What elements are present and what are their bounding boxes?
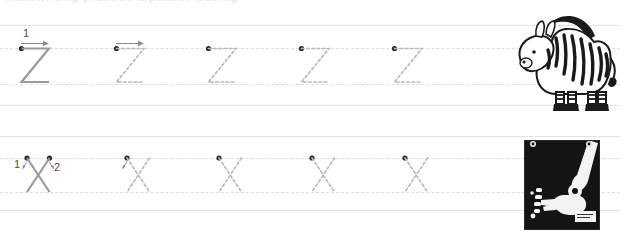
stroke-number-1: 1 (23, 27, 29, 39)
worksheet-page: handwriting practice alphabet tracing 1 (0, 0, 620, 232)
trace-letter-x-3[interactable] (299, 146, 369, 208)
trace-letter-z-2[interactable] (205, 24, 269, 94)
direction-arrow-1-icon (22, 162, 27, 170)
direction-arrow-1-icon (122, 162, 127, 170)
letter-path-z (302, 49, 330, 83)
letter-path-z (209, 49, 237, 83)
stroke-number-2: 2 (54, 161, 60, 173)
letter-path-z (395, 49, 423, 83)
zebra-illustration (512, 10, 618, 122)
trace-letter-z-3[interactable] (298, 24, 362, 94)
trace-letter-x-2[interactable] (206, 146, 276, 208)
letter-path-z (117, 49, 145, 83)
trace-letter-x-1[interactable] (114, 146, 184, 208)
page-title-cropped: handwriting practice alphabet tracing (6, 0, 306, 3)
row-x-top-rule (0, 136, 620, 137)
model-letter-x[interactable]: 1 2 (14, 146, 84, 208)
trace-letter-x-4[interactable] (392, 146, 462, 208)
trace-letter-z-4[interactable] (391, 24, 455, 94)
letter-path-z (22, 49, 50, 83)
direction-arrow-icon (21, 41, 49, 46)
zebra-drawing (519, 16, 616, 111)
stroke-number-1: 1 (14, 158, 20, 170)
xray-photograph (524, 140, 600, 230)
direction-arrow-icon (116, 41, 144, 46)
model-letter-z[interactable]: 1 (18, 24, 82, 94)
trace-letter-z-1[interactable] (113, 24, 177, 94)
